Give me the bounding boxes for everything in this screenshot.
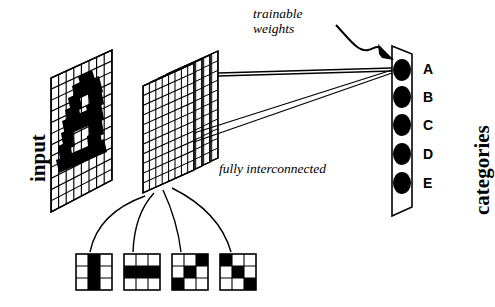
trainable-weights-label: trainable weights	[253, 6, 303, 36]
trainable-weights-line-2: weights	[253, 21, 303, 36]
fanout-curve-3	[163, 190, 181, 252]
category-letter-C: C	[423, 117, 433, 133]
input-plane	[51, 50, 112, 212]
output-unit-C[interactable]	[393, 114, 411, 136]
category-letter-D: D	[423, 146, 433, 162]
trainable-weights-arrow	[336, 25, 394, 60]
category-letter-E: E	[423, 175, 432, 191]
category-letter-A: A	[423, 61, 433, 77]
categories-label: categories	[470, 125, 495, 215]
kernel-anti-diagonal	[172, 254, 208, 290]
output-unit-E[interactable]	[393, 172, 411, 194]
output-unit-A[interactable]	[393, 59, 411, 81]
output-plane	[392, 46, 412, 216]
fully-interconnected-label: fully interconnected	[219, 161, 326, 176]
input-label: input	[26, 134, 51, 182]
weight-line-3	[194, 70, 392, 133]
feature-map-stack	[143, 51, 218, 193]
category-letter-B: B	[423, 89, 433, 105]
kernel-horizontal-bar	[124, 254, 160, 290]
output-unit-B[interactable]	[393, 86, 411, 108]
output-unit-D[interactable]	[393, 143, 411, 165]
kernel-vertical-bar	[76, 254, 112, 290]
feature-map-plane-1	[143, 63, 194, 193]
fanout-curves	[90, 188, 231, 252]
fanout-curve-2	[133, 193, 154, 252]
trainable-weights-line-1: trainable	[253, 6, 303, 21]
weight-line-4	[194, 73, 392, 142]
weight-connection-lines	[194, 68, 392, 142]
fanout-curve-4	[172, 188, 231, 252]
kernel-diagonal	[220, 254, 256, 290]
